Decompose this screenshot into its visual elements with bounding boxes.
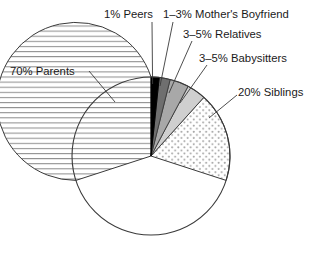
chart-canvas: 1% Peers 1–3% Mother's Boyfriend 3–5% Re… bbox=[0, 0, 328, 253]
leader-line-peers bbox=[152, 22, 153, 84]
label-peers: 1% Peers bbox=[104, 8, 153, 20]
label-mothers-boyfriend: 1–3% Mother's Boyfriend bbox=[163, 8, 289, 20]
label-siblings: 20% Siblings bbox=[238, 86, 304, 98]
label-relatives: 3–5% Relatives bbox=[183, 28, 262, 40]
pie-chart-figure: 1% Peers 1–3% Mother's Boyfriend 3–5% Re… bbox=[0, 0, 328, 253]
label-babysitters: 3–5% Babysitters bbox=[199, 52, 287, 64]
pie-slice-parents[interactable] bbox=[0, 22, 151, 180]
label-parents: 70% Parents bbox=[10, 65, 75, 77]
